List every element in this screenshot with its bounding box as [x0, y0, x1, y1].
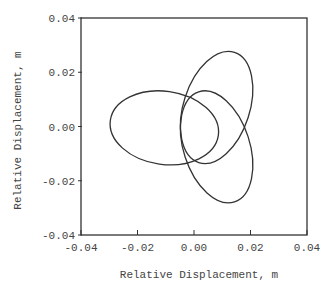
y-tick-label: 0.02	[49, 67, 75, 79]
y-tick-label: -0.04	[42, 230, 75, 242]
y-tick-label: -0.02	[42, 176, 75, 188]
phase-plot: -0.04-0.020.000.020.04 -0.04-0.020.000.0…	[0, 0, 331, 290]
y-tick-label: 0.04	[49, 13, 76, 25]
x-tick-label: -0.02	[121, 242, 154, 254]
plot-frame	[81, 18, 307, 235]
x-tick-label: -0.04	[64, 242, 97, 254]
upper-right-lobe	[167, 42, 266, 173]
x-tick-label: 0.02	[237, 242, 263, 254]
x-axis-label: Relative Displacement, m	[120, 269, 279, 281]
x-tick-label: 0.00	[181, 242, 207, 254]
lower-right-lobe	[167, 82, 266, 213]
y-axis-label: Relative Displacement, m	[12, 51, 24, 210]
x-axis-ticks: -0.04-0.020.000.020.04	[64, 230, 320, 254]
y-tick-label: 0.00	[49, 122, 75, 134]
x-tick-label: 0.04	[294, 242, 321, 254]
left-lobe	[105, 84, 223, 172]
y-axis-ticks: -0.04-0.020.000.020.04	[42, 13, 82, 242]
plot-area	[105, 42, 266, 212]
